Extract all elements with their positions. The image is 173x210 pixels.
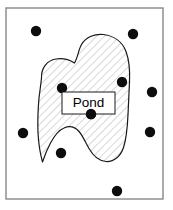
sample-point [145, 127, 155, 137]
sample-point [117, 77, 127, 87]
sample-point [18, 128, 28, 138]
figure-root: Pond [0, 0, 173, 210]
sample-point [112, 186, 122, 196]
sample-point [128, 29, 138, 39]
sample-point [31, 26, 41, 36]
sample-point [147, 87, 157, 97]
pond-label-text: Pond [73, 95, 105, 110]
sample-point-on-label [86, 109, 96, 119]
sample-point [56, 148, 66, 158]
pond-map-figure: Pond [0, 0, 173, 210]
